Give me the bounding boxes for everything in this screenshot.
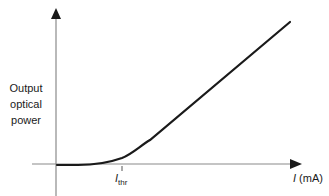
x-axis-unit: (mA)	[296, 172, 323, 184]
y-axis-label-line: Output	[0, 80, 52, 96]
x-axis-label: I (mA)	[293, 172, 323, 184]
threshold-subscript: thr	[118, 178, 127, 187]
threshold-label: Ithr	[115, 172, 127, 187]
y-axis-label-line: power	[0, 112, 52, 128]
x-axis-arrow-icon	[290, 159, 302, 169]
li-curve	[57, 22, 290, 165]
y-axis-label: Output optical power	[0, 80, 52, 128]
y-axis-arrow-icon	[51, 8, 61, 19]
y-axis-label-line: optical	[0, 96, 52, 112]
